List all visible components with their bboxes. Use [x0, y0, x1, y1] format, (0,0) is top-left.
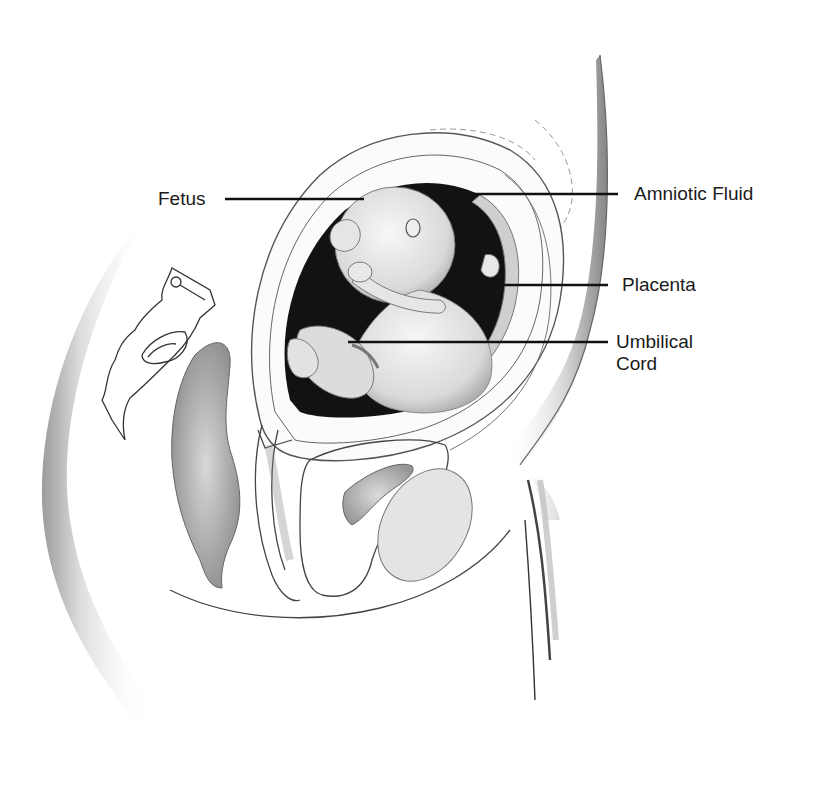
label-amniotic-fluid: Amniotic Fluid: [634, 183, 753, 205]
label-fetus: Fetus: [158, 188, 206, 210]
label-umbilical-cord: Umbilical Cord: [616, 331, 693, 375]
diagram-canvas: Fetus Amniotic Fluid Placenta Umbilical …: [0, 0, 828, 802]
ear-detail: [406, 219, 420, 237]
back-outline: [42, 210, 150, 740]
label-placenta: Placenta: [622, 274, 696, 296]
rectum: [172, 343, 240, 588]
anatomy-illustration: [0, 0, 828, 802]
